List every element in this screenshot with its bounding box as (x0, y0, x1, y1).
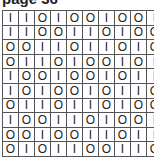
grid-cell: I (131, 127, 147, 142)
grid-cell: O (51, 25, 67, 40)
grid-cell: I (67, 25, 83, 40)
grid-row: OIOIIOOIIO (3, 142, 155, 157)
grid-cell: O (51, 83, 67, 98)
grid-cell: I (83, 127, 99, 142)
grid-cell: I (67, 98, 83, 113)
grid-row: IIOIOOIOOI (3, 11, 155, 26)
grid-cell: I (99, 69, 115, 84)
grid-cell: O (115, 69, 131, 84)
grid-cell: I (3, 83, 19, 98)
grid-row: OIIOIOOIOI (3, 54, 155, 69)
grid-cell: O (83, 113, 99, 128)
grid-cell: O (35, 11, 51, 26)
grid-cell: I (99, 113, 115, 128)
grid-cell: I (131, 40, 147, 55)
grid-cell: I (115, 142, 131, 157)
grid-cell: I (83, 25, 99, 40)
grid-cell: O (147, 142, 155, 157)
grid-cell: I (115, 83, 131, 98)
grid-cell: O (99, 83, 115, 98)
grid-cell: I (99, 40, 115, 55)
grid-cell: I (35, 83, 51, 98)
grid-row: OIIOIIOIOO (3, 98, 155, 113)
grid-cell: O (19, 40, 35, 55)
grid-cell: I (147, 113, 155, 128)
grid-cell: I (51, 11, 67, 26)
grid-cell: I (51, 40, 67, 55)
grid-cell: O (67, 83, 83, 98)
grid-cell: I (115, 25, 131, 40)
grid-cell: I (35, 98, 51, 113)
page-title: page 36 (2, 0, 58, 6)
grid-cell: O (67, 69, 83, 84)
grid-cell: O (19, 83, 35, 98)
grid-cell: O (131, 113, 147, 128)
grid-cell: I (83, 98, 99, 113)
grid-cell: I (147, 11, 155, 26)
grid-cell: O (83, 54, 99, 69)
grid-cell: I (19, 54, 35, 69)
grid-cell: I (19, 142, 35, 157)
grid-cell: O (19, 113, 35, 128)
grid-cell: O (131, 54, 147, 69)
grid-cell: O (99, 98, 115, 113)
grid-cell: I (67, 113, 83, 128)
binary-grid: IIOIOOIOOIIIOOIIOIOOOOIIOIIOIOOIIOIOOIOI… (2, 10, 154, 157)
grid-cell: I (3, 11, 19, 26)
grid-cell: O (35, 142, 51, 157)
grid-cell: O (99, 54, 115, 69)
grid-cell: O (3, 142, 19, 157)
grid-cell: O (131, 11, 147, 26)
grid-cell: O (3, 98, 19, 113)
grid-cell: O (51, 127, 67, 142)
grid-cell: I (115, 98, 131, 113)
grid-cell: I (147, 127, 155, 142)
grid-row: IOIOOIOIIO (3, 83, 155, 98)
grid-cell: O (147, 83, 155, 98)
grid-cell: O (35, 25, 51, 40)
grid-cell: O (51, 54, 67, 69)
grid-cell: I (131, 83, 147, 98)
grid-cell: O (99, 142, 115, 157)
grid-cell: I (131, 69, 147, 84)
grid-cell: I (67, 54, 83, 69)
grid-cell: O (35, 113, 51, 128)
grid-cell: O (147, 98, 155, 113)
grid-row: OOIIOIIOIO (3, 40, 155, 55)
grid-cell: I (147, 54, 155, 69)
grid-cell: O (67, 40, 83, 55)
grid-cell: I (99, 11, 115, 26)
grid-cell: O (115, 113, 131, 128)
grid-cell: O (19, 69, 35, 84)
grid-cell: O (35, 69, 51, 84)
grid-cell: O (83, 11, 99, 26)
grid-cell: O (115, 40, 131, 55)
grid-cell: O (115, 127, 131, 142)
grid-row: IOOIOOIOII (3, 69, 155, 84)
grid-cell: O (3, 54, 19, 69)
grid-cell: O (3, 127, 19, 142)
grid-cell: I (3, 25, 19, 40)
grid-cell: I (51, 69, 67, 84)
grid-cell: O (131, 25, 147, 40)
grid-body: IIOIOOIOOIIIOOIIOIOOOOIIOIIOIOOIIOIOOIOI… (3, 11, 155, 157)
grid-cell: O (147, 40, 155, 55)
grid-cell: I (83, 40, 99, 55)
grid-row: IOOIIOIOOI (3, 113, 155, 128)
grid-cell: I (67, 142, 83, 157)
grid-cell: I (51, 113, 67, 128)
grid-cell: I (147, 69, 155, 84)
grid-cell: I (131, 142, 147, 157)
grid-cell: O (147, 25, 155, 40)
grid-row: IIOOIIOIOO (3, 25, 155, 40)
grid-cell: O (51, 98, 67, 113)
grid-cell: I (19, 25, 35, 40)
grid-cell: O (131, 98, 147, 113)
grid-cell: O (83, 142, 99, 157)
grid-cell: I (115, 54, 131, 69)
grid-cell: I (35, 127, 51, 142)
grid-cell: O (3, 40, 19, 55)
grid-cell: O (83, 69, 99, 84)
grid-cell: O (67, 127, 83, 142)
grid-cell: I (99, 127, 115, 142)
